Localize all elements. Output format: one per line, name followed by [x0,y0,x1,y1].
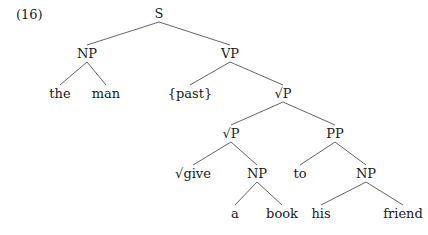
tree-node-the: the [49,86,71,101]
tree-node-to: to [293,166,306,181]
tree-node-book: book [266,206,298,221]
syntax-tree: SNPVPtheman{past}√P√PPP√giveNPtoNPabookh… [0,0,428,235]
tree-node-rp2: √P [222,126,239,141]
tree-edge [300,142,335,165]
tree-edge [230,62,283,85]
tree-edge [87,62,106,85]
tree-node-np2: NP [247,166,267,181]
tree-edge [231,102,283,125]
tree-edge [366,182,403,205]
tree-edge [321,182,366,205]
tree-node-his: his [311,206,330,221]
tree-edge [190,62,230,85]
tree-edge [193,142,231,165]
tree-node-a: a [231,206,239,221]
tree-node-friend: friend [383,206,423,221]
tree-nodes: SNPVPtheman{past}√P√PPP√giveNPtoNPabookh… [49,6,422,221]
tree-edge [87,22,159,45]
tree-edge [231,142,257,165]
tree-edge [283,102,335,125]
tree-edge [60,62,87,85]
tree-edge [235,182,257,205]
tree-node-s: S [155,6,164,21]
tree-node-vp: VP [220,46,239,61]
tree-node-np1: NP [77,46,97,61]
tree-node-give: √give [175,166,211,181]
tree-edge [257,182,282,205]
tree-node-np3: NP [356,166,376,181]
tree-node-man: man [92,86,121,101]
tree-edge [335,142,366,165]
tree-node-past: {past} [168,86,213,101]
tree-edge [159,22,230,45]
tree-node-rp1: √P [274,86,291,101]
tree-node-pp: PP [326,126,344,141]
